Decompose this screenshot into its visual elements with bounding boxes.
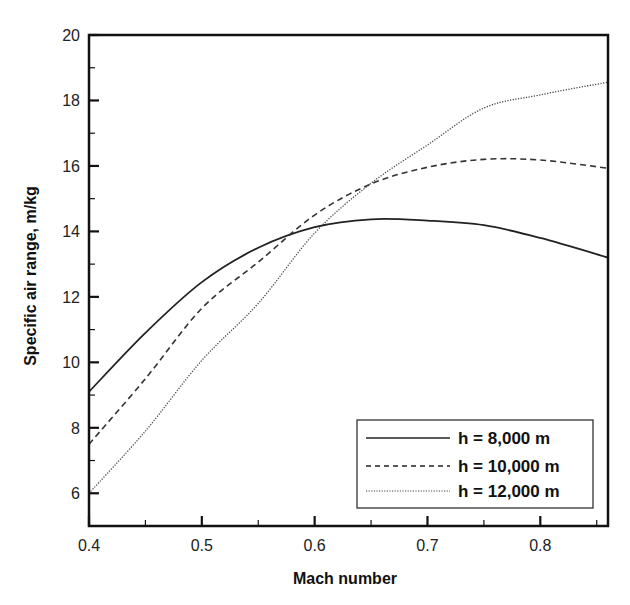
y-axis-title: Specific air range, m/kg <box>22 186 39 366</box>
y-tick-label: 14 <box>62 223 80 240</box>
series-line-solid <box>89 219 608 392</box>
y-tick-label: 18 <box>62 92 80 109</box>
y-tick-label: 10 <box>62 354 80 371</box>
y-tick-label: 6 <box>71 485 80 502</box>
series-line-dashed <box>89 159 608 444</box>
y-tick-label: 20 <box>62 27 80 44</box>
x-tick-label: 0.4 <box>78 537 100 554</box>
y-tick-label: 12 <box>62 289 80 306</box>
x-tick-label: 0.5 <box>191 537 213 554</box>
x-tick-label: 0.8 <box>529 537 551 554</box>
legend-label-12000: h = 12,000 m <box>458 482 560 501</box>
legend-label-8000: h = 8,000 m <box>458 429 550 448</box>
y-tick-label: 16 <box>62 158 80 175</box>
x-tick-label: 0.7 <box>416 537 438 554</box>
legend-label-10000: h = 10,000 m <box>458 457 560 476</box>
y-tick-label: 8 <box>71 420 80 437</box>
x-axis-title: Mach number <box>293 570 397 587</box>
legend: h = 8,000 m h = 10,000 m h = 12,000 m <box>357 420 593 508</box>
x-tick-label: 0.6 <box>304 537 326 554</box>
line-chart: 0.40.50.60.70.868101214161820 Mach numbe… <box>0 0 630 605</box>
